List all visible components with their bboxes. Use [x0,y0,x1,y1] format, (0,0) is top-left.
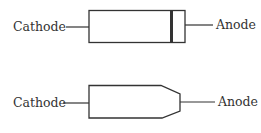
cathode-label: Cathode [13,20,66,34]
diode-body-tapered [89,86,180,119]
anode-label: Anode [218,95,258,109]
diode-with-band [66,11,213,43]
anode-label: Anode [216,18,256,32]
cathode-label: Cathode [13,96,66,110]
diode-tapered [63,86,215,119]
cathode-band [170,11,173,43]
